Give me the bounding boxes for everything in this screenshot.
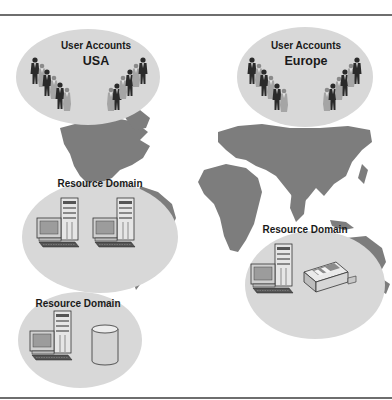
resource-domain-americas-label: Resource Domain	[57, 178, 142, 189]
map-africa	[198, 164, 262, 252]
map-japan	[358, 164, 368, 184]
user-domain-europe[interactable]: User Accounts Europe	[237, 27, 373, 127]
resource-domain-asia-label: Resource Domain	[262, 224, 347, 235]
user-domain-usa-line1: User Accounts	[61, 40, 132, 51]
resource-domain-bottom-label: Resource Domain	[35, 298, 120, 309]
user-domain-europe-line2: Europe	[284, 54, 327, 68]
database-icon	[92, 325, 118, 365]
resource-domain-bottom[interactable]: Resource Domain	[18, 292, 142, 388]
domain-diagram: User Accounts USA User Accounts Europe	[0, 0, 392, 400]
user-domain-usa[interactable]: User Accounts USA	[16, 29, 160, 125]
user-domain-europe-line1: User Accounts	[271, 40, 342, 51]
user-domain-usa-line2: USA	[83, 54, 109, 68]
